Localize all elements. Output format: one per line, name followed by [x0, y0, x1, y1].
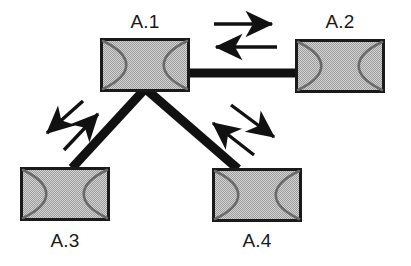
router-icon — [102, 40, 189, 91]
router-icon — [297, 41, 384, 92]
node-label-a1: A.1 — [130, 11, 159, 32]
router-icon — [214, 170, 301, 221]
node-label-a2: A.2 — [325, 11, 354, 32]
node-a1[interactable] — [102, 40, 189, 91]
node-a4[interactable] — [214, 170, 301, 221]
node-label-a4: A.4 — [242, 230, 271, 251]
node-a3[interactable] — [22, 169, 109, 220]
network-topology-diagram: A.1 A.2 A.3 A.4 — [0, 0, 411, 266]
router-icon — [22, 169, 109, 220]
diagram-canvas: A.1 A.2 A.3 A.4 — [0, 0, 411, 266]
node-label-a3: A.3 — [50, 230, 79, 251]
node-a2[interactable] — [297, 41, 384, 92]
node-layer — [22, 40, 384, 221]
arrow-a1-to-a3-icon — [47, 101, 83, 133]
arrow-a1-to-a4-icon — [231, 105, 274, 137]
link-a1-a4 — [147, 90, 238, 169]
